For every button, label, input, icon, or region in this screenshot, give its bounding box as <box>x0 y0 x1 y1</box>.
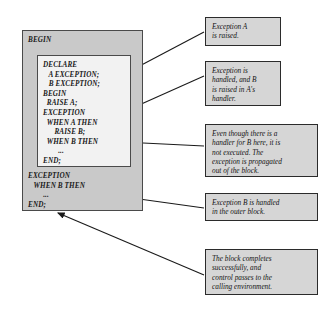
outer-code-line: WHEN B THEN <box>28 182 85 192</box>
callout-block-completes: The block completes successfully, and co… <box>205 249 318 295</box>
inner-code-line: EXCEPTION <box>43 109 100 119</box>
arrow-to-block-end <box>58 213 204 275</box>
outer-code-line: END; <box>28 201 85 211</box>
outer-code-after: EXCEPTION WHEN B THEN ... END; <box>28 172 85 210</box>
inner-code-line: WHEN B THEN <box>43 138 100 148</box>
callout-handled-outer-block: Exception B is handled in the outer bloc… <box>205 193 318 221</box>
callout-text: Exception B is handled in the outer bloc… <box>212 198 312 217</box>
inner-code-line: ... <box>43 147 100 157</box>
inner-code-line: RAISE A; <box>43 99 100 109</box>
callout-text: Even though there is a handler for B her… <box>212 129 312 175</box>
inner-code-listing: DECLARE A EXCEPTION; B EXCEPTION; BEGIN … <box>43 61 100 167</box>
inner-code-line: BEGIN <box>43 90 100 100</box>
outer-plsql-block: BEGIN DECLARE A EXCEPTION; B EXCEPTION; … <box>22 30 143 211</box>
callout-exception-a-raised: Exception A is raised. <box>205 17 281 46</box>
diagram-canvas: BEGIN DECLARE A EXCEPTION; B EXCEPTION; … <box>0 0 325 318</box>
inner-code-line: END; <box>43 157 100 167</box>
inner-code-line: B EXCEPTION; <box>43 80 100 90</box>
inner-plsql-block: DECLARE A EXCEPTION; B EXCEPTION; BEGIN … <box>37 55 131 167</box>
callout-handler-not-executed: Even though there is a handler for B her… <box>205 124 318 177</box>
callout-text: Exception is handled, and B is raised in… <box>212 66 275 103</box>
outer-code-before: BEGIN <box>28 36 51 46</box>
outer-code-line: EXCEPTION <box>28 172 85 182</box>
inner-code-line: DECLARE <box>43 61 100 71</box>
callout-text: Exception A is raised. <box>212 22 275 41</box>
callout-exception-handled: Exception is handled, and B is raised in… <box>205 61 281 106</box>
outer-code-line: ... <box>28 191 85 201</box>
inner-code-line: RAISE B; <box>43 128 100 138</box>
inner-code-line: A EXCEPTION; <box>43 71 100 81</box>
callout-text: The block completes successfully, and co… <box>212 254 312 291</box>
inner-code-line: WHEN A THEN <box>43 119 100 129</box>
